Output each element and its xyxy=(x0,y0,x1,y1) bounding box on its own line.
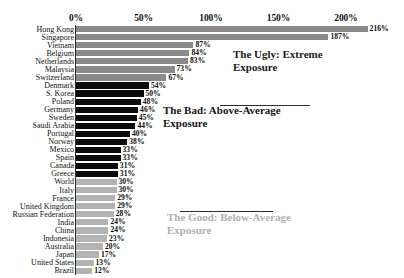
annotation-bad: The Bad: Above-Average Exposure xyxy=(163,104,363,130)
bar-good xyxy=(76,243,103,249)
bar-good xyxy=(76,203,115,209)
bar-row: Brazil12% xyxy=(0,267,404,276)
annotation-good: The Good: Below-Average Exposure xyxy=(167,211,377,237)
bar-bad xyxy=(76,171,118,177)
bar-good xyxy=(76,179,117,185)
category-label: Brazil xyxy=(0,266,74,275)
value-label: 216% xyxy=(370,24,389,33)
bar-bad xyxy=(76,163,118,169)
value-label: 83% xyxy=(190,56,205,65)
bar-chart: 0%50%100%150%200% Hong Kong216%Singapore… xyxy=(0,0,404,278)
bar-ugly xyxy=(76,26,368,32)
bar-good xyxy=(76,187,117,193)
bar-bad xyxy=(76,147,121,153)
bar-bad xyxy=(76,155,121,161)
x-axis-tick-200: 200% xyxy=(334,13,357,23)
annotation-ugly: The Ugly: Extreme Exposure xyxy=(233,48,398,74)
bar-good xyxy=(76,227,108,233)
value-label: 67% xyxy=(168,73,183,82)
bar-ugly xyxy=(76,50,189,56)
bar-bad xyxy=(76,131,130,137)
bar-good xyxy=(76,195,115,201)
bar-bad xyxy=(76,90,144,96)
x-axis-tick-150: 150% xyxy=(267,13,290,23)
bar-bad xyxy=(76,107,138,113)
x-axis-tick-0: 0% xyxy=(69,13,83,23)
bar-good xyxy=(76,219,108,225)
bar-ugly xyxy=(76,66,175,72)
bar-bad xyxy=(76,82,149,88)
bar-good xyxy=(76,211,114,217)
value-label: 187% xyxy=(330,32,349,41)
bar-bad xyxy=(76,139,127,145)
bar-bad xyxy=(76,99,141,105)
bar-good xyxy=(76,260,94,266)
bar-bad xyxy=(76,123,135,129)
x-axis-tick-50: 50% xyxy=(134,13,153,23)
bar-ugly xyxy=(76,42,193,48)
x-axis-tick-labels: 0%50%100%150%200% xyxy=(0,13,404,25)
value-label: 12% xyxy=(94,266,109,275)
bar-ugly xyxy=(76,58,188,64)
bar-bad xyxy=(76,115,137,121)
bar-good xyxy=(76,268,92,274)
bar-good xyxy=(76,235,107,241)
x-axis-tick-100: 100% xyxy=(199,13,222,23)
